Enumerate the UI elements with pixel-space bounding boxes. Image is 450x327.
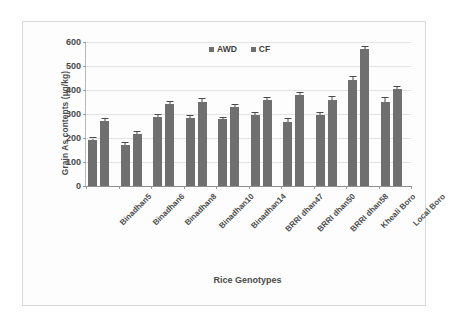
y-axis-tick-label: 500: [66, 61, 81, 71]
error-bar-cap: [382, 97, 389, 98]
bar-group: Kheali Boro: [346, 42, 379, 186]
error-bar-cap: [101, 118, 108, 119]
error-bar-cap: [166, 101, 173, 102]
error-bar: [234, 105, 235, 107]
x-axis-tick-label: Binadhan5: [118, 192, 153, 227]
error-bar: [287, 119, 288, 121]
error-bar: [299, 93, 300, 95]
error-bar: [352, 77, 353, 79]
error-bar-cap: [187, 115, 194, 116]
error-bar: [137, 132, 138, 134]
bar-cf: [263, 100, 272, 186]
bar-awd: [186, 118, 195, 186]
x-axis-tick-mark: [184, 186, 185, 189]
bar-awd: [88, 140, 97, 186]
x-axis-tick-mark: [249, 186, 250, 189]
error-bar: [157, 115, 158, 117]
bar-awd: [316, 115, 325, 186]
error-bar: [332, 97, 333, 100]
error-bar-cap: [231, 104, 238, 105]
error-bar: [125, 143, 126, 145]
error-bar: [202, 99, 203, 102]
error-bar: [169, 102, 170, 104]
y-axis-tick-label: 100: [66, 157, 81, 167]
bar-group: Binadhan5: [86, 42, 119, 186]
bar-awd: [283, 122, 292, 186]
y-axis-tick-label: 200: [66, 133, 81, 143]
error-bar-cap: [394, 86, 401, 87]
chart-figure: Grain As contents (µg/kg) AWD CF 0100200…: [22, 21, 426, 306]
plot-area: 0100200300400500600Binadhan5Binadhan6Bin…: [85, 42, 411, 187]
bar-group: Binadhan8: [151, 42, 184, 186]
bar-group: Binadhan14: [216, 42, 249, 186]
error-bar-cap: [284, 118, 291, 119]
y-axis-tick-label: 0: [76, 181, 81, 191]
bar-cf: [133, 134, 142, 186]
error-bar: [267, 98, 268, 100]
x-axis-tick-mark: [151, 186, 152, 189]
error-bar-cap: [317, 112, 324, 113]
error-bar-cap: [134, 131, 141, 132]
x-axis-tick-mark: [119, 186, 120, 189]
error-bar: [397, 87, 398, 89]
y-axis-tick-label: 400: [66, 85, 81, 95]
bar-awd: [153, 117, 162, 186]
x-axis-tick-mark: [86, 186, 87, 189]
error-bar-cap: [296, 92, 303, 93]
x-axis-tick-mark: [314, 186, 315, 189]
bar-cf: [360, 49, 369, 186]
error-bar: [104, 119, 105, 121]
error-bar-cap: [252, 112, 259, 113]
x-axis-tick-mark: [411, 186, 412, 189]
bar-awd: [348, 80, 357, 186]
error-bar-cap: [199, 98, 206, 99]
x-axis-tick-mark: [346, 186, 347, 189]
error-bar-cap: [219, 117, 226, 118]
error-bar-cap: [329, 96, 336, 97]
x-axis-tick-label: Binadhan8: [183, 192, 218, 227]
error-bar-cap: [154, 114, 161, 115]
error-bar-cap: [264, 97, 271, 98]
bar-group: BRRI dhan50: [281, 42, 314, 186]
bar-cf: [328, 100, 337, 186]
error-bar-cap: [349, 76, 356, 77]
bar-cf: [198, 102, 207, 186]
bar-group: BRRI dhan47: [249, 42, 282, 186]
bar-cf: [100, 121, 109, 186]
bar-group: BRRI dhan58: [314, 42, 347, 186]
error-bar-cap: [89, 137, 96, 138]
error-bar: [320, 113, 321, 115]
x-axis-tick-mark: [216, 186, 217, 189]
bar-cf: [295, 95, 304, 186]
error-bar: [385, 98, 386, 101]
bar-group: Binadhan10: [184, 42, 217, 186]
bar-awd: [218, 119, 227, 186]
y-axis-tick-label: 300: [66, 109, 81, 119]
error-bar: [190, 116, 191, 118]
x-axis-tick-mark: [379, 186, 380, 189]
error-bar-cap: [361, 46, 368, 47]
bar-group: Binadhan6: [119, 42, 152, 186]
error-bar: [222, 118, 223, 119]
bar-awd: [381, 102, 390, 186]
bar-awd: [121, 145, 130, 186]
error-bar: [92, 139, 93, 141]
bar-group: Local Boro: [379, 42, 412, 186]
x-axis-title: Rice Genotypes: [85, 275, 410, 285]
x-axis-tick-mark: [281, 186, 282, 189]
bar-cf: [165, 104, 174, 186]
x-axis-tick-label: Binadhan6: [151, 192, 186, 227]
error-bar: [255, 113, 256, 115]
bar-cf: [230, 107, 239, 186]
bar-awd: [251, 115, 260, 186]
bar-cf: [393, 89, 402, 186]
error-bar-cap: [122, 142, 129, 143]
y-axis-tick-label: 600: [66, 37, 81, 47]
error-bar: [364, 47, 365, 50]
